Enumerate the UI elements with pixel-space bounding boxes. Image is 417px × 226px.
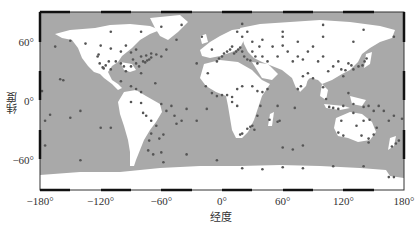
- station-marker: [337, 131, 340, 134]
- station-marker: [317, 60, 320, 63]
- station-marker: [258, 45, 261, 48]
- station-marker: [253, 128, 256, 131]
- station-marker: [294, 107, 297, 110]
- station-marker: [231, 96, 234, 99]
- station-marker: [140, 72, 143, 75]
- station-marker: [69, 39, 72, 42]
- station-marker: [322, 24, 325, 27]
- station-marker: [383, 110, 386, 113]
- station-marker: [251, 40, 254, 43]
- station-marker: [44, 144, 47, 147]
- station-marker: [395, 142, 398, 145]
- station-marker: [99, 126, 102, 129]
- station-marker: [297, 40, 300, 43]
- station-marker: [241, 167, 244, 170]
- station-marker: [347, 92, 350, 95]
- station-marker: [120, 50, 123, 53]
- station-marker: [140, 31, 143, 34]
- station-marker: [328, 106, 331, 109]
- station-marker: [216, 159, 219, 162]
- station-marker: [327, 70, 330, 73]
- station-marker: [62, 79, 65, 82]
- station-marker: [342, 105, 345, 108]
- station-marker: [84, 42, 87, 45]
- station-marker: [281, 31, 284, 34]
- station-marker: [138, 65, 141, 68]
- station-marker: [281, 44, 284, 47]
- x-tick-label: 0°: [217, 195, 227, 207]
- station-marker: [266, 88, 269, 91]
- station-marker: [142, 112, 145, 115]
- station-marker: [236, 31, 239, 34]
- station-marker: [261, 38, 264, 41]
- station-marker: [148, 139, 151, 142]
- station-marker: [108, 60, 111, 63]
- station-marker: [155, 124, 158, 127]
- station-marker: [165, 48, 168, 51]
- station-marker: [160, 103, 163, 106]
- x-tick-label: 120°: [333, 195, 354, 207]
- station-marker: [256, 62, 259, 65]
- station-marker: [49, 114, 52, 117]
- station-marker: [130, 51, 133, 54]
- station-marker: [261, 91, 264, 94]
- station-marker: [96, 55, 99, 58]
- station-marker: [243, 55, 246, 58]
- station-marker: [276, 105, 279, 108]
- station-marker: [145, 54, 148, 57]
- x-axis-label: 经度: [210, 208, 232, 224]
- station-marker: [342, 134, 345, 137]
- station-marker: [241, 50, 244, 53]
- x-tick-label: 180°: [394, 195, 415, 207]
- station-marker: [302, 167, 305, 170]
- station-marker: [261, 168, 264, 171]
- station-marker: [377, 105, 380, 108]
- station-marker: [367, 105, 370, 108]
- station-marker: [160, 26, 163, 29]
- station-marker: [125, 70, 128, 73]
- station-marker: [246, 58, 249, 61]
- station-marker: [206, 108, 209, 111]
- station-marker: [302, 144, 305, 147]
- y-tick-label: 0°: [24, 95, 34, 107]
- station-marker: [223, 52, 226, 55]
- station-marker: [132, 58, 135, 61]
- station-marker: [249, 59, 252, 62]
- station-marker: [135, 48, 138, 51]
- station-marker: [160, 151, 163, 154]
- world-map: [0, 0, 417, 226]
- station-marker: [173, 115, 176, 118]
- station-marker: [372, 110, 375, 113]
- y-tick-label: 60°: [19, 36, 34, 48]
- station-marker: [360, 134, 363, 137]
- station-marker: [362, 120, 365, 123]
- station-marker: [388, 120, 391, 123]
- station-marker: [292, 60, 295, 63]
- station-marker: [205, 85, 208, 88]
- station-marker: [79, 159, 82, 162]
- station-marker: [352, 112, 355, 115]
- station-marker: [361, 64, 364, 67]
- station-marker: [352, 103, 355, 106]
- station-marker: [342, 75, 345, 78]
- station-marker: [352, 68, 355, 71]
- station-marker: [340, 120, 343, 123]
- station-marker: [216, 60, 219, 63]
- station-marker: [286, 50, 289, 53]
- station-marker: [175, 38, 178, 41]
- station-marker: [195, 62, 198, 65]
- station-marker: [44, 120, 47, 123]
- station-marker: [281, 35, 284, 38]
- station-marker: [297, 88, 300, 91]
- station-marker: [150, 52, 153, 55]
- station-marker: [365, 57, 368, 60]
- station-marker: [150, 132, 153, 135]
- station-marker: [322, 55, 325, 58]
- station-marker: [401, 118, 404, 121]
- station-marker: [170, 105, 173, 108]
- station-marker: [130, 101, 133, 104]
- station-marker: [239, 133, 242, 136]
- station-marker: [140, 102, 143, 105]
- station-marker: [175, 122, 178, 125]
- station-marker: [241, 85, 244, 88]
